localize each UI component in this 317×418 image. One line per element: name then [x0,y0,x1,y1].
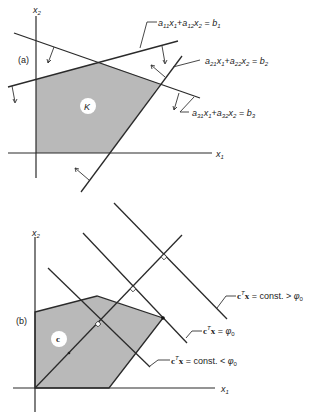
panel-a: K (a) x2 x1 a11x1+a12x2 = b1 a21x1+a22x2… [8,5,269,192]
optimal-vertex [161,316,165,320]
x1-axis-label: x1 [215,149,224,160]
leader-line-greater [217,296,236,308]
level-line-greater [114,203,227,319]
panel-b: c (b) x2 x1 cTx = const. > φ0 cTx = φ0 c… [13,203,304,412]
vector-dot [68,352,71,355]
region-label-k: K [84,102,91,112]
level-label-less: cTx = const. < φ0 [171,355,238,367]
constraint-label-3: a31x1+a32x2 = b3 [192,108,256,119]
level-label-optimal: cTx = φ0 [203,325,235,337]
panel-b-tag: (b) [16,316,27,326]
vector-label-c: c [56,334,60,344]
constraint-label-1: a11x1+a12x2 = b1 [158,18,221,29]
x2-axis-label: x2 [31,228,41,239]
x2-axis-label: x2 [32,5,42,16]
leader-line-b1 [140,22,157,48]
leader-line-less [150,360,170,366]
constraint-label-2: a21x1+a22x2 = b2 [205,56,269,67]
level-label-greater: cTx = const. > φ0 [237,290,304,302]
leader-line-optimal [186,331,202,338]
panel-a-tag: (a) [18,55,29,65]
feasible-region-k [36,62,160,153]
x1-axis-label: x1 [220,384,229,395]
lp-figure: K (a) x2 x1 a11x1+a12x2 = b1 a21x1+a22x2… [0,0,317,418]
